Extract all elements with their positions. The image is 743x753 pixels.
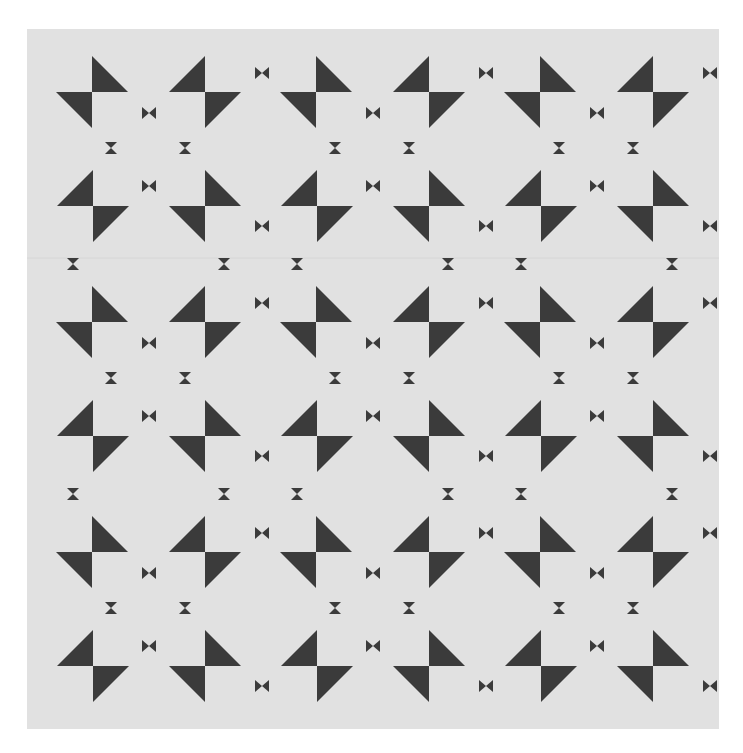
gray-panel	[27, 29, 719, 729]
pattern-canvas	[0, 0, 743, 753]
